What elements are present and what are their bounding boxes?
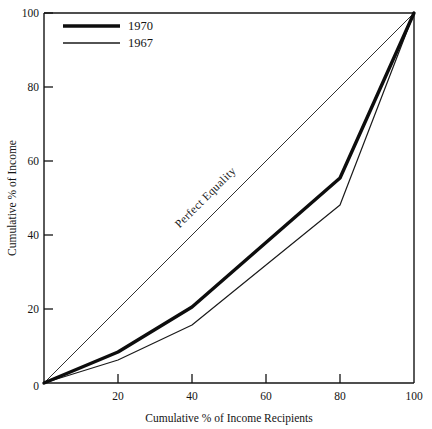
chart-legend: 1970 1967 bbox=[63, 19, 153, 50]
x-tick-label-0: 0 bbox=[33, 380, 39, 392]
y-tick-label-60: 60 bbox=[28, 155, 40, 167]
x-tick-label-20: 20 bbox=[112, 390, 124, 402]
y-tick-label-100: 100 bbox=[22, 7, 40, 19]
x-axis-ticks bbox=[118, 374, 340, 383]
x-tick-label-100: 100 bbox=[405, 390, 423, 402]
y-axis-ticks bbox=[44, 13, 53, 309]
legend-label-1970: 1970 bbox=[128, 19, 153, 33]
y-tick-label-20: 20 bbox=[28, 303, 40, 315]
x-tick-label-60: 60 bbox=[260, 390, 272, 402]
legend-label-1967: 1967 bbox=[128, 36, 153, 50]
x-axis-title: Cumulative % of Income Recipients bbox=[145, 412, 313, 425]
y-axis-title: Cumulative % of Income bbox=[6, 140, 18, 256]
y-tick-label-40: 40 bbox=[28, 229, 40, 241]
x-tick-label-40: 40 bbox=[186, 390, 198, 402]
x-tick-label-80: 80 bbox=[334, 390, 346, 402]
y-tick-label-80: 80 bbox=[28, 81, 40, 93]
chart-canvas: 100 80 60 40 20 0 20 40 60 80 100 Cumula… bbox=[0, 0, 432, 429]
perfect-equality-annotation: Perfect Equality bbox=[172, 164, 238, 230]
lorenz-curve-figure: 100 80 60 40 20 0 20 40 60 80 100 Cumula… bbox=[0, 0, 432, 429]
perfect-equality-line bbox=[44, 13, 414, 383]
